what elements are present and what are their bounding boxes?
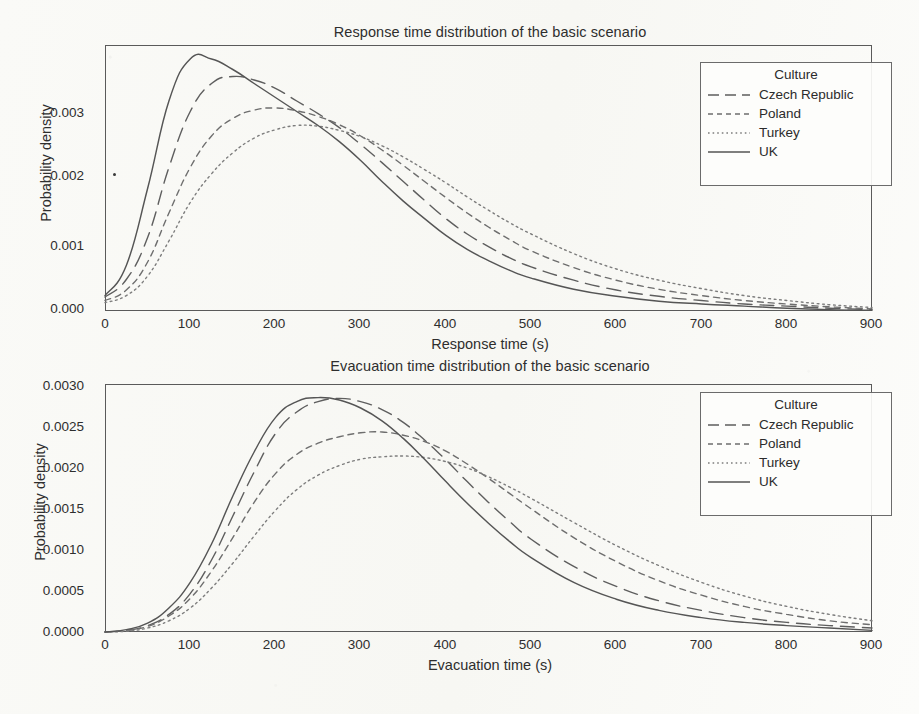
x-tick-evacuation-5: 500 bbox=[508, 637, 552, 652]
x-tick-response-0: 0 bbox=[90, 316, 120, 331]
legend-item-czech-republic[interactable]: Czech Republic bbox=[701, 415, 891, 434]
x-tick-evacuation-7: 700 bbox=[679, 637, 723, 652]
x-tick-response-6: 600 bbox=[593, 316, 637, 331]
x-tick-evacuation-4: 400 bbox=[423, 637, 467, 652]
legend-item-uk[interactable]: UK bbox=[701, 142, 891, 161]
x-tick-response-3: 300 bbox=[337, 316, 381, 331]
x-tick-evacuation-3: 300 bbox=[337, 637, 381, 652]
line-style-short-dash-icon bbox=[707, 109, 751, 119]
x-tick-evacuation-2: 200 bbox=[252, 637, 296, 652]
figure-container: Response time distribution of the basic … bbox=[0, 0, 919, 714]
x-tick-response-5: 500 bbox=[508, 316, 552, 331]
legend-label-poland: Poland bbox=[759, 437, 801, 451]
legend-item-poland[interactable]: Poland bbox=[701, 434, 891, 453]
legend-item-poland[interactable]: Poland bbox=[701, 104, 891, 123]
legend-item-turkey[interactable]: Turkey bbox=[701, 453, 891, 472]
x-tick-response-2: 200 bbox=[252, 316, 296, 331]
x-tick-response-7: 700 bbox=[679, 316, 723, 331]
legend-label-uk: UK bbox=[759, 145, 778, 159]
x-tick-evacuation-0: 0 bbox=[90, 637, 120, 652]
line-style-long-dash-icon bbox=[707, 420, 751, 430]
legend-title-evacuation: Culture bbox=[701, 397, 891, 412]
legend-item-czech-republic[interactable]: Czech Republic bbox=[701, 85, 891, 104]
line-style-solid-icon bbox=[707, 147, 751, 157]
line-style-long-dash-icon bbox=[707, 90, 751, 100]
x-axis-label-response: Response time (s) bbox=[360, 336, 620, 352]
chart-panel-response-time: Response time distribution of the basic … bbox=[0, 10, 919, 360]
legend-item-uk[interactable]: UK bbox=[701, 472, 891, 491]
legend-title-response: Culture bbox=[701, 67, 891, 82]
legend-label-turkey: Turkey bbox=[759, 126, 800, 140]
line-style-solid-icon bbox=[707, 477, 751, 487]
x-tick-evacuation-9: 900 bbox=[849, 637, 893, 652]
x-tick-response-1: 100 bbox=[167, 316, 211, 331]
x-tick-response-8: 800 bbox=[764, 316, 808, 331]
x-tick-response-4: 400 bbox=[423, 316, 467, 331]
legend-label-czech-republic: Czech Republic bbox=[759, 88, 854, 102]
chart-panel-evacuation-time: Evacuation time distribution of the basi… bbox=[0, 352, 919, 714]
legend-label-czech-republic: Czech Republic bbox=[759, 418, 854, 432]
legend-label-poland: Poland bbox=[759, 107, 801, 121]
x-tick-evacuation-1: 100 bbox=[167, 637, 211, 652]
line-style-short-dash-icon bbox=[707, 439, 751, 449]
line-style-dotted-icon bbox=[707, 128, 751, 138]
legend-label-turkey: Turkey bbox=[759, 456, 800, 470]
legend-item-turkey[interactable]: Turkey bbox=[701, 123, 891, 142]
legend-response[interactable]: Culture Czech Republic Poland Turkey bbox=[700, 62, 892, 186]
legend-label-uk: UK bbox=[759, 475, 778, 489]
x-tick-response-9: 900 bbox=[849, 316, 893, 331]
line-style-dotted-icon bbox=[707, 458, 751, 468]
x-tick-evacuation-6: 600 bbox=[593, 637, 637, 652]
x-axis-label-evacuation: Evacuation time (s) bbox=[355, 657, 625, 673]
legend-evacuation[interactable]: Culture Czech Republic Poland Turkey bbox=[700, 392, 892, 516]
x-tick-evacuation-8: 800 bbox=[764, 637, 808, 652]
